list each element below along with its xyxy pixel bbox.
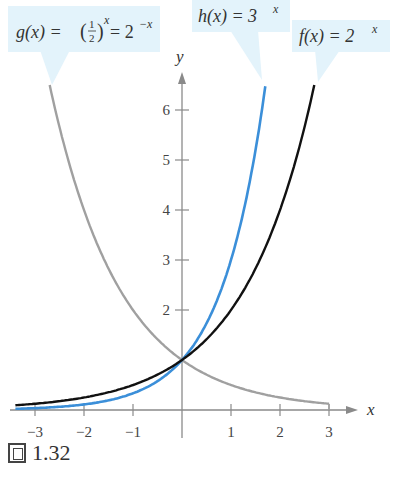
y-axis-arrow-icon: [178, 72, 186, 84]
x-tick-label: 2: [276, 424, 284, 440]
figure-caption: 1.32: [8, 440, 71, 466]
svg-text:): ): [97, 20, 104, 43]
x-axis-label: x: [366, 400, 375, 419]
figure-glyph-icon: [8, 443, 26, 463]
y-tick-label: 6: [163, 102, 171, 118]
axis-ticks: −3−2−112323456: [27, 102, 333, 440]
x-tick-label: 1: [227, 424, 235, 440]
svg-text:1: 1: [89, 18, 95, 30]
x-tick-label: 3: [325, 424, 333, 440]
figure-number: 1.32: [32, 440, 71, 465]
callout-g: [8, 6, 160, 85]
svg-text:x: x: [103, 13, 110, 27]
y-tick-label: 2: [163, 302, 171, 318]
x-tick-label: −1: [125, 424, 141, 440]
y-tick-label: 4: [163, 202, 171, 218]
svg-text:g(x) =: g(x) =: [16, 22, 62, 43]
y-axis-label: y: [174, 47, 184, 66]
svg-text:2: 2: [89, 32, 95, 44]
svg-text:(: (: [80, 20, 87, 43]
curve-h: [15, 86, 265, 409]
svg-text:h(x) = 3: h(x) = 3: [198, 6, 257, 27]
y-tick-label: 5: [163, 152, 171, 168]
curves: [15, 85, 329, 410]
x-tick-label: −3: [27, 424, 43, 440]
svg-text:−x: −x: [139, 17, 153, 31]
svg-text:= 2: = 2: [110, 22, 134, 42]
exponential-functions-chart: −3−2−112323456 y x g(x) = ( 1 2 ) x = 2 …: [0, 0, 393, 478]
x-tick-label: −2: [76, 424, 92, 440]
svg-text:f(x) = 2: f(x) = 2: [299, 26, 354, 47]
svg-text:x: x: [371, 22, 378, 36]
y-tick-label: 3: [163, 252, 171, 268]
x-axis-arrow-icon: [346, 406, 358, 414]
svg-text:x: x: [272, 2, 279, 16]
